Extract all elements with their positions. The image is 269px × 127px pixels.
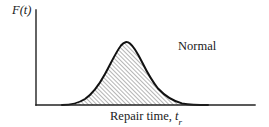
distribution-plot [0, 0, 269, 126]
x-axis-label: Repair time, tr [36, 110, 256, 126]
figure-container: F(t) Normal Repair time, tr [0, 0, 269, 126]
y-axis-label-function: F [12, 3, 20, 17]
series-label-normal: Normal [178, 40, 216, 53]
y-axis-label: F(t) [12, 4, 31, 17]
y-axis-label-close-paren: ) [27, 3, 31, 17]
x-axis-label-text: Repair time, [110, 109, 172, 123]
x-axis-label-subscript: r [178, 117, 182, 127]
